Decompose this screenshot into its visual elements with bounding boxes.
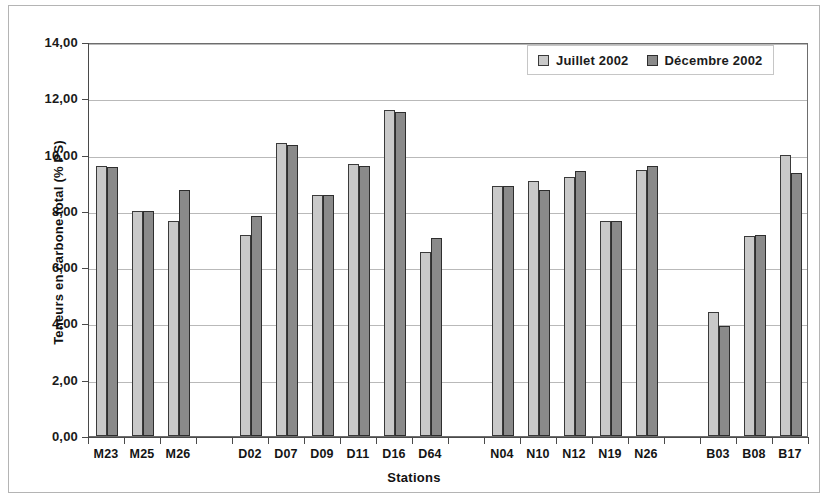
legend-item: Juillet 2002 — [538, 53, 629, 68]
bar — [179, 190, 190, 436]
plot-area — [88, 43, 808, 437]
y-axis-tick — [82, 212, 88, 213]
bar — [276, 143, 287, 436]
legend-label: Juillet 2002 — [556, 53, 629, 68]
x-axis-tick-label: M26 — [152, 447, 204, 461]
x-axis-tick — [196, 438, 197, 444]
x-axis-tick — [736, 438, 737, 444]
y-axis-tick — [82, 268, 88, 269]
bar — [744, 236, 755, 436]
x-axis-tick — [88, 438, 89, 444]
bar — [528, 181, 539, 436]
bar — [287, 145, 298, 436]
x-axis-tick — [700, 438, 701, 444]
y-axis-tick — [82, 381, 88, 382]
bar — [600, 221, 611, 436]
x-axis-tick — [340, 438, 341, 444]
x-axis-tick — [592, 438, 593, 444]
bar — [791, 173, 802, 436]
y-axis-tick-label: 0,00 — [4, 429, 78, 444]
bar — [420, 252, 431, 436]
bar — [107, 167, 118, 436]
bar — [96, 166, 107, 436]
bar — [708, 312, 719, 436]
bar — [755, 235, 766, 436]
x-axis-tick — [448, 438, 449, 444]
y-axis-tick — [82, 324, 88, 325]
bar — [251, 216, 262, 436]
x-axis-tick — [124, 438, 125, 444]
bar — [312, 195, 323, 436]
bar — [780, 155, 791, 436]
bar — [611, 221, 622, 436]
legend-item: Décembre 2002 — [647, 53, 763, 68]
x-axis-tick — [772, 438, 773, 444]
gridline — [89, 269, 807, 270]
x-axis-tick — [556, 438, 557, 444]
bar — [168, 221, 179, 436]
gridline — [89, 157, 807, 158]
x-axis-tick-label: B17 — [764, 447, 816, 461]
bar — [492, 186, 503, 436]
x-axis-tick — [160, 438, 161, 444]
gridline — [89, 382, 807, 383]
x-axis-tick — [664, 438, 665, 444]
legend-swatch-icon — [538, 55, 549, 66]
bar — [384, 110, 395, 436]
x-axis-tick — [304, 438, 305, 444]
y-axis-title: Teneurs en carbone total (% PS) — [51, 53, 66, 433]
bar — [503, 186, 514, 436]
chart-legend: Juillet 2002 Décembre 2002 — [527, 45, 774, 75]
x-axis-tick-label: N26 — [620, 447, 672, 461]
x-axis-title: Stations — [0, 470, 828, 485]
y-axis-line — [88, 43, 89, 438]
bar — [647, 166, 658, 436]
x-axis-tick — [268, 438, 269, 444]
bar — [395, 112, 406, 436]
y-axis-title-wrapper: Teneurs en carbone total (% PS) — [28, 90, 52, 390]
bar — [143, 211, 154, 436]
gridline — [89, 325, 807, 326]
bar — [132, 211, 143, 436]
bar — [240, 235, 251, 436]
y-axis-tick — [82, 156, 88, 157]
y-axis-tick — [82, 43, 88, 44]
bar — [564, 177, 575, 436]
bar — [359, 166, 370, 436]
bar — [348, 164, 359, 436]
legend-label: Décembre 2002 — [665, 53, 763, 68]
gridline — [89, 100, 807, 101]
bar — [323, 195, 334, 436]
legend-swatch-icon — [647, 55, 658, 66]
y-axis-tick — [82, 99, 88, 100]
chart-screenshot: 0,002,004,006,008,0010,0012,0014,00 Tene… — [0, 0, 828, 501]
bar — [636, 170, 647, 436]
x-axis-tick — [232, 438, 233, 444]
x-axis-tick — [484, 438, 485, 444]
x-axis-tick-label: D64 — [404, 447, 456, 461]
y-axis-tick-label: 14,00 — [4, 35, 78, 50]
x-axis-tick — [628, 438, 629, 444]
x-axis-tick — [412, 438, 413, 444]
gridline — [89, 213, 807, 214]
x-axis-tick — [520, 438, 521, 444]
bar — [719, 326, 730, 436]
bar — [539, 190, 550, 436]
bar — [575, 171, 586, 436]
x-axis-tick — [376, 438, 377, 444]
x-axis-tick — [808, 438, 809, 444]
bar — [431, 238, 442, 436]
